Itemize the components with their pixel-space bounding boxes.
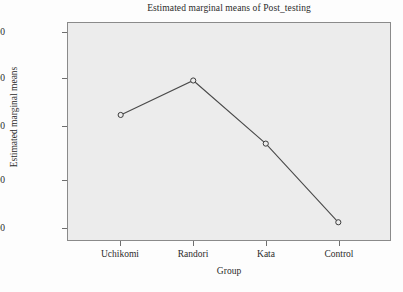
x-tick-mark (120, 241, 121, 246)
y-tick-label: 250.00 (0, 27, 5, 37)
y-tick-label: 230.00 (0, 121, 5, 131)
data-point-marker (336, 220, 341, 225)
x-tick-mark (339, 241, 340, 246)
data-point-marker (263, 141, 268, 146)
x-tick-mark (193, 241, 194, 246)
series-line (121, 80, 339, 222)
chart-figure: Estimated marginal means of Post_testing… (0, 0, 403, 292)
chart-title: Estimated marginal means of Post_testing (67, 3, 391, 13)
y-tick-label: 210.00 (0, 223, 5, 233)
x-axis-title: Group (67, 266, 391, 276)
y-axis-title: Estimated marginal means (9, 17, 19, 217)
data-point-marker (191, 78, 196, 83)
y-tick-label: 220.00 (0, 175, 5, 185)
x-tick-label-control: Control (294, 249, 384, 259)
data-point-marker (118, 112, 123, 117)
plot-series-svg (68, 23, 390, 240)
y-tick-label: 240.00 (0, 73, 5, 83)
x-tick-mark (266, 241, 267, 246)
plot-area (67, 22, 391, 241)
